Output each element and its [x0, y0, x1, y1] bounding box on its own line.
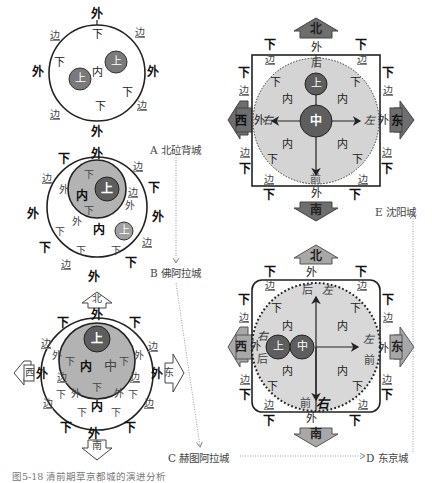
label-outer: 外 — [151, 368, 163, 380]
label-lower: 下 — [267, 154, 278, 166]
label-outer: 外 — [59, 184, 69, 196]
label-edge: 边 — [142, 237, 152, 249]
label-edge: 边 — [50, 109, 60, 121]
label-edge: 边 — [264, 399, 274, 411]
label-outer: 外 — [91, 126, 103, 138]
label-lower: 下 — [148, 182, 160, 194]
label-outer: 外 — [306, 413, 317, 425]
label-edge: 边 — [240, 374, 250, 386]
label-lower: 下 — [355, 266, 367, 278]
label-lower: 下 — [128, 389, 138, 401]
label-edge: 边 — [130, 372, 140, 384]
label-outer: 外 — [306, 267, 317, 279]
label-left: 左 — [363, 334, 374, 346]
label-edge: 边 — [358, 399, 368, 411]
label-edge: 边 — [382, 374, 392, 386]
label-front: 前 — [300, 398, 311, 410]
label-inner: 内 — [92, 67, 103, 79]
label-inner: 内 — [337, 139, 348, 151]
label-inner: 内 — [282, 366, 293, 378]
label-lower: 下 — [350, 77, 361, 89]
label-outer: 外 — [114, 388, 124, 400]
label-lower: 下 — [381, 163, 393, 175]
label-lower: 下 — [349, 189, 361, 201]
label-lower: 下 — [54, 57, 65, 69]
label-lower: 下 — [60, 422, 72, 434]
label-lower: 下 — [349, 415, 361, 427]
caption-stage-b: B 佛阿拉城 — [150, 265, 201, 280]
label-lower: 下 — [58, 153, 70, 165]
label-outer: 外 — [152, 211, 164, 223]
direction-west: 西 — [25, 367, 35, 379]
label-inner: 内 — [337, 366, 348, 378]
direction-west: 西 — [235, 341, 247, 353]
caption-stage-e: E 沈阳城 — [375, 204, 416, 219]
label-front: 前 — [364, 355, 375, 367]
label-upper: 上 — [75, 73, 86, 85]
direction-east: 东 — [164, 367, 174, 379]
label-lower: 下 — [76, 245, 86, 257]
label-edge: 边 — [383, 312, 393, 324]
label-lower: 下 — [65, 356, 75, 368]
label-upper: 上 — [91, 333, 103, 345]
direction-south: 南 — [310, 428, 322, 440]
label-lower: 下 — [39, 242, 51, 254]
label-inner: 内 — [282, 139, 293, 151]
label-lower: 下 — [125, 257, 137, 269]
caption-stage-c: C 赫图阿拉城 — [168, 450, 229, 465]
label-lower: 下 — [352, 381, 363, 393]
label-lower: 下 — [56, 389, 66, 401]
label-outer: 外 — [88, 271, 100, 283]
label-inner: 内 — [93, 224, 105, 236]
label-lower: 下 — [267, 381, 278, 393]
label-edge: 边 — [50, 30, 60, 42]
label-edge: 边 — [240, 147, 250, 159]
label-outer: 外 — [71, 388, 81, 400]
direction-south: 南 — [92, 440, 102, 452]
label-left: 左 — [364, 115, 375, 127]
label-outer: 外 — [91, 309, 103, 321]
label-left: 左 — [322, 285, 333, 297]
direction-east: 东 — [391, 115, 403, 127]
label-lower: 下 — [263, 415, 275, 427]
label-edge: 边 — [43, 398, 53, 410]
label-lower: 下 — [350, 303, 361, 315]
label-front: 前 — [310, 174, 321, 186]
label-outer: 外 — [311, 188, 322, 200]
direction-north: 北 — [310, 23, 322, 35]
label-outer: 外 — [125, 200, 135, 212]
label-inner: 内 — [337, 321, 348, 333]
label-center: 中 — [310, 115, 322, 127]
label-inner: 内 — [282, 94, 293, 106]
label-outer: 外 — [91, 8, 103, 20]
label-lower: 下 — [111, 407, 121, 419]
label-rear: 后 — [311, 58, 322, 70]
label-lower: 下 — [95, 101, 106, 113]
label-edge: 边 — [265, 280, 275, 292]
label-edge: 边 — [137, 100, 147, 112]
label-lower: 下 — [355, 39, 367, 51]
label-edge: 边 — [42, 173, 52, 185]
label-lower: 下 — [84, 169, 94, 181]
label-edge: 边 — [148, 341, 158, 353]
label-edge: 边 — [41, 338, 51, 350]
label-lower: 下 — [77, 407, 87, 419]
label-inner: 内 — [337, 94, 348, 106]
label-edge: 边 — [265, 54, 275, 66]
direction-east: 东 — [391, 341, 403, 353]
label-edge: 边 — [358, 174, 368, 186]
label-lower: 下 — [270, 77, 281, 89]
label-upper: 上 — [111, 56, 122, 68]
label-edge: 边 — [135, 27, 145, 39]
label-right: 右 — [316, 398, 329, 410]
label-right: 右 — [262, 115, 273, 127]
label-outer: 外 — [378, 343, 389, 355]
label-lower: 下 — [271, 303, 282, 315]
label-lower: 下 — [238, 294, 250, 306]
label-lower: 下 — [57, 317, 69, 329]
label-center: 中 — [297, 341, 308, 353]
label-upper: 上 — [273, 341, 284, 353]
label-edge: 边 — [57, 372, 67, 384]
label-edge: 边 — [239, 312, 249, 324]
caption-stage-a: A 北砬背城 — [150, 142, 201, 157]
